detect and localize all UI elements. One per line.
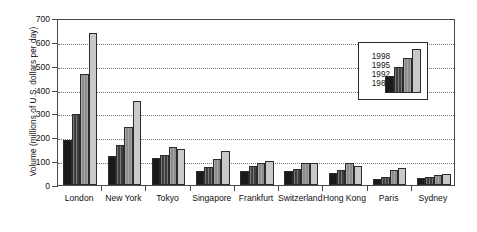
- bar: [265, 161, 273, 185]
- bar: [398, 168, 406, 185]
- bar: [160, 155, 168, 185]
- legend-swatch: [403, 58, 412, 93]
- bar: [108, 156, 116, 185]
- y-tick-mark: [52, 186, 58, 187]
- bar: [133, 101, 141, 185]
- y-tick-label: 700: [4, 14, 50, 24]
- bar-group-bars: [235, 20, 279, 185]
- x-tick-label: Sydney: [397, 193, 469, 203]
- x-tick-mark: [411, 186, 412, 191]
- bar-group: [58, 20, 102, 185]
- bar: [221, 151, 229, 185]
- bar: [80, 74, 88, 185]
- bar-chart-figure: Volume (millions of U.S. dollars per day…: [0, 0, 477, 232]
- y-tick-label: 400: [4, 86, 50, 96]
- x-tick-mark: [145, 186, 146, 191]
- bar: [63, 140, 71, 185]
- bar: [310, 163, 318, 185]
- bar: [213, 159, 221, 185]
- bar-group-bars: [279, 20, 323, 185]
- bar: [417, 178, 425, 185]
- bar-group-bars: [58, 20, 102, 185]
- bar: [124, 127, 132, 185]
- x-tick-mark: [234, 186, 235, 191]
- bar: [257, 163, 265, 185]
- bar: [354, 166, 362, 185]
- bar: [337, 170, 345, 185]
- bar: [196, 171, 204, 185]
- legend-swatch-bars: [385, 47, 421, 93]
- legend-swatch: [385, 76, 394, 93]
- y-tick-label: 600: [4, 38, 50, 48]
- bar-group: [102, 20, 146, 185]
- bar-group: [191, 20, 235, 185]
- bar: [284, 171, 292, 185]
- chart-legend: 1989199219951998: [358, 42, 428, 100]
- bar: [329, 173, 337, 185]
- bar-group: [146, 20, 190, 185]
- bar-group: [279, 20, 323, 185]
- legend-swatch: [412, 49, 421, 93]
- bar: [240, 171, 248, 185]
- x-tick-mark: [101, 186, 102, 191]
- y-tick-label: 100: [4, 157, 50, 167]
- bar: [116, 145, 124, 185]
- bar: [301, 163, 309, 185]
- bar-group-bars: [191, 20, 235, 185]
- y-tick-label: 200: [4, 133, 50, 143]
- bar-group-bars: [146, 20, 190, 185]
- bar-group: [235, 20, 279, 185]
- bar: [152, 158, 160, 185]
- bar: [204, 167, 212, 185]
- bar: [177, 149, 185, 185]
- bar: [345, 163, 353, 185]
- bar: [390, 170, 398, 185]
- bar: [373, 179, 381, 185]
- legend-swatch: [394, 67, 403, 93]
- x-tick-mark: [278, 186, 279, 191]
- x-tick-mark: [367, 186, 368, 191]
- bar: [442, 174, 450, 185]
- bar: [434, 175, 442, 185]
- y-tick-label: 300: [4, 109, 50, 119]
- bar: [249, 166, 257, 185]
- y-tick-label: 0: [4, 181, 50, 191]
- bar: [72, 114, 80, 185]
- bar: [89, 33, 97, 185]
- bar: [169, 147, 177, 185]
- bar: [293, 169, 301, 185]
- bar: [381, 177, 389, 185]
- x-tick-mark: [190, 186, 191, 191]
- x-tick-mark: [322, 186, 323, 191]
- bar-group-bars: [102, 20, 146, 185]
- y-tick-label: 500: [4, 62, 50, 72]
- bar: [425, 177, 433, 185]
